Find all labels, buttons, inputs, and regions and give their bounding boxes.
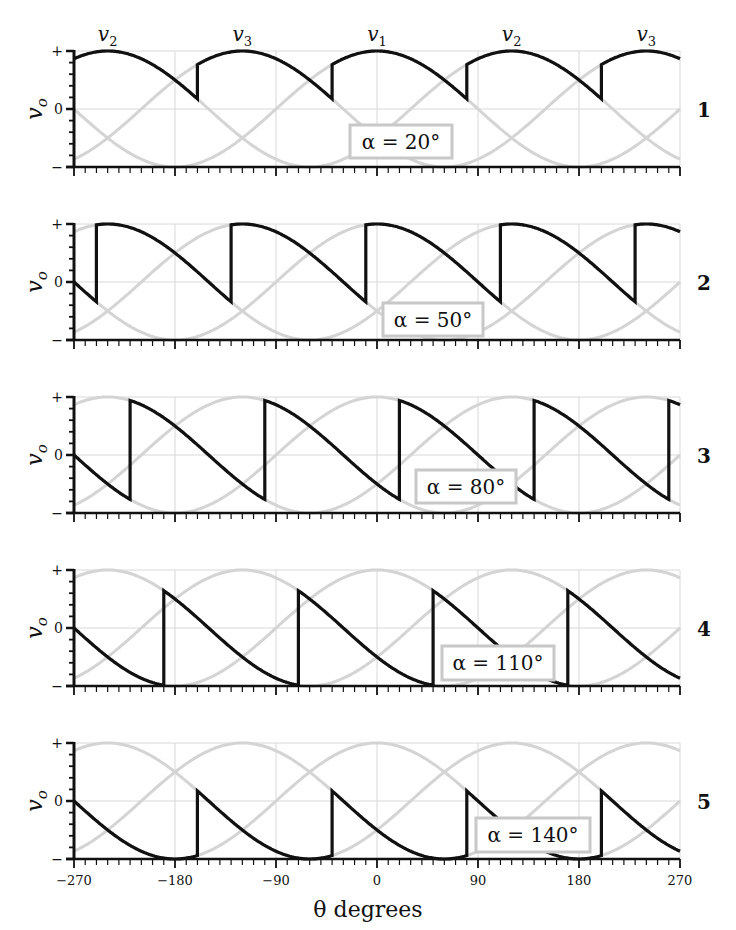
phase-label-v3: v3 [233, 22, 253, 49]
x-tick-label: −90 [262, 873, 289, 888]
panel-2: +0−voα = 50°2 [22, 216, 711, 349]
y-tick-label: − [51, 159, 63, 175]
y-axis-label: vo [22, 617, 51, 638]
y-tick-label: 0 [54, 793, 63, 809]
panel-number: 3 [697, 444, 711, 468]
grid [74, 397, 680, 513]
panel-5: +0−voα = 140°5 [22, 735, 711, 868]
y-tick-label: 0 [54, 447, 63, 463]
phase-label-v3: v3 [637, 22, 657, 49]
x-tick-label: 0 [373, 873, 381, 888]
y-axis-label: vo [22, 444, 51, 465]
x-tick-label: −270 [56, 873, 92, 888]
x-tick-label: 90 [470, 873, 487, 888]
phase-controlled-rectifier-figure: v2v3v1v2v3 +0−voα = 20°1+0−voα = 50°2+0−… [0, 0, 736, 930]
alpha-annotation: α = 20° [350, 125, 452, 158]
x-tick-label: −180 [157, 873, 193, 888]
panel-number: 1 [697, 98, 711, 122]
y-tick-label: + [51, 389, 63, 405]
y-axis-label: vo [22, 790, 51, 811]
y-tick-label: 0 [54, 274, 63, 290]
svg-text:α = 20°: α = 20° [362, 130, 440, 154]
alpha-annotation: α = 50° [383, 303, 483, 336]
panel-1: +0−voα = 20°1 [22, 43, 711, 176]
phase-label-v2: v2 [98, 22, 118, 49]
x-tick-label: 270 [668, 873, 693, 888]
panel-3: +0−voα = 80°3 [22, 389, 711, 522]
alpha-annotation: α = 80° [416, 470, 516, 503]
y-axis-label: vo [22, 98, 51, 119]
alpha-annotation: α = 140° [476, 818, 590, 852]
y-tick-label: + [51, 216, 63, 232]
y-tick-label: 0 [54, 101, 63, 117]
panel-number: 4 [697, 617, 711, 641]
svg-text:α = 140°: α = 140° [487, 823, 578, 847]
panel-number: 5 [697, 790, 711, 814]
y-tick-label: + [51, 735, 63, 751]
panels: +0−voα = 20°1+0−voα = 50°2+0−voα = 80°3+… [22, 43, 711, 868]
svg-text:α = 110°: α = 110° [452, 651, 543, 675]
x-axis-tick-labels: −270−180−90090180270 [56, 873, 692, 888]
phase-label-v2: v2 [502, 22, 522, 49]
y-tick-label: 0 [54, 620, 63, 636]
y-tick-label: + [51, 562, 63, 578]
panel-4: +0−voα = 110°4 [22, 562, 711, 695]
y-tick-label: − [51, 505, 63, 521]
y-tick-label: + [51, 43, 63, 59]
panel-number: 2 [697, 271, 711, 295]
phase-labels: v2v3v1v2v3 [98, 22, 656, 49]
phase-label-v1: v1 [367, 22, 387, 49]
y-tick-label: − [51, 678, 63, 694]
grid [74, 224, 680, 340]
svg-text:α = 80°: α = 80° [427, 475, 505, 499]
y-tick-label: − [51, 851, 63, 867]
x-tick-label: 180 [567, 873, 592, 888]
y-axis-label: vo [22, 271, 51, 292]
y-tick-label: − [51, 332, 63, 348]
alpha-annotation: α = 110° [442, 646, 554, 680]
svg-text:α = 50°: α = 50° [394, 308, 472, 332]
x-axis-label: θ degrees [313, 897, 422, 922]
